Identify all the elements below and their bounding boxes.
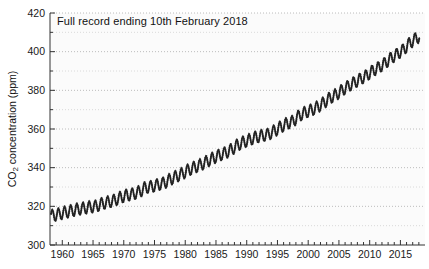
x-tick-label: 1990 bbox=[235, 248, 259, 260]
y-tick-label: 380 bbox=[27, 84, 45, 96]
x-tick-label: 2015 bbox=[389, 248, 413, 260]
x-tick-label: 1975 bbox=[143, 248, 167, 260]
y-tick-label: 320 bbox=[27, 200, 45, 212]
y-axis-title: CO2 concentration (ppm) bbox=[6, 71, 20, 188]
co2-concentration-chart: 3003203403603804004201960196519701975198… bbox=[0, 0, 429, 269]
x-tick-label: 1980 bbox=[174, 248, 198, 260]
x-tick-label: 1995 bbox=[266, 248, 290, 260]
y-axis-title-prefix: CO bbox=[6, 172, 18, 188]
y-tick-label: 340 bbox=[27, 161, 45, 173]
x-tick-label: 1960 bbox=[51, 248, 75, 260]
y-axis-title-suffix: concentration (ppm) bbox=[6, 71, 18, 167]
x-tick-label: 2010 bbox=[358, 248, 382, 260]
y-tick-label: 360 bbox=[27, 123, 45, 135]
plot-svg: 3003203403603804004201960196519701975198… bbox=[0, 0, 429, 269]
x-tick-label: 2000 bbox=[297, 248, 321, 260]
y-tick-label: 420 bbox=[27, 7, 45, 19]
x-tick-label: 1970 bbox=[112, 248, 136, 260]
x-tick-label: 1965 bbox=[81, 248, 105, 260]
y-tick-label: 300 bbox=[27, 239, 45, 251]
x-tick-label: 1985 bbox=[204, 248, 228, 260]
y-axis-title-subscript: 2 bbox=[11, 167, 20, 171]
chart-title: Full record ending 10th February 2018 bbox=[57, 15, 248, 27]
y-tick-label: 400 bbox=[27, 45, 45, 57]
x-tick-label: 2005 bbox=[327, 248, 351, 260]
